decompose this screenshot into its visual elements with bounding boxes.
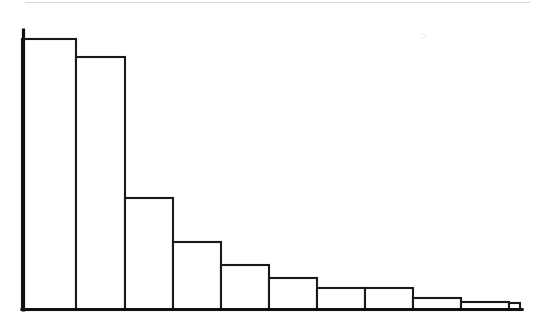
histogram-figure: > [0,0,553,327]
histogram-bar [269,278,317,310]
histogram-bar [22,39,76,310]
histogram-bar [221,265,269,310]
histogram-bar [317,288,365,310]
histogram-bar [173,242,221,310]
histogram-chart: > [0,0,553,327]
histogram-bar [125,198,173,310]
bars-group [22,39,520,310]
histogram-bar [76,57,125,310]
paper-speck-artifact: > [420,28,427,43]
histogram-bar [365,288,413,310]
